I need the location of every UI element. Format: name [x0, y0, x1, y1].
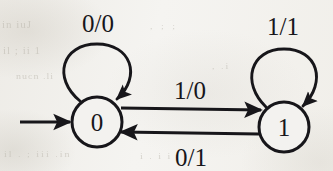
transition-arrow-1-to-0 — [121, 132, 259, 134]
state-label-0: 0 — [91, 109, 104, 136]
edge-label-self-loop-1: 1/1 — [267, 13, 299, 40]
self-loop-state-0 — [64, 44, 131, 101]
state-diagram-page: in iuJ il ; ii 1 nucn .li il . ; iii .in… — [0, 0, 333, 171]
transition-arrow-0-to-1 — [121, 108, 261, 110]
edge-label-1-to-0: 0/1 — [175, 144, 207, 171]
self-loop-state-1 — [252, 49, 317, 107]
state-diagram: 0 1 0/0 1/1 1/0 0/1 — [0, 0, 333, 171]
edge-label-self-loop-0: 0/0 — [82, 10, 114, 37]
edge-label-0-to-1: 1/0 — [174, 77, 206, 104]
state-label-1: 1 — [278, 114, 291, 141]
